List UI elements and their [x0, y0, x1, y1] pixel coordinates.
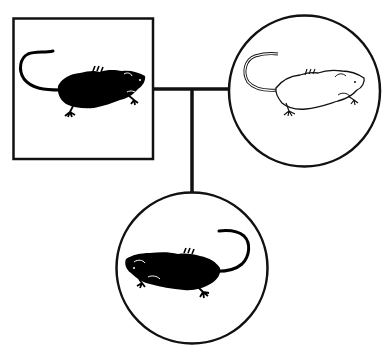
pedigree-diagram — [0, 0, 389, 348]
parent-female-circle — [229, 16, 380, 167]
parent-male-square — [14, 19, 154, 160]
offspring-circle — [117, 193, 268, 344]
